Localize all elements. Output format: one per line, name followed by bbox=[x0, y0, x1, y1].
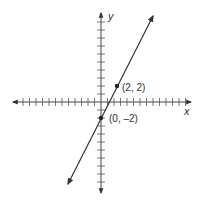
point-2-2-label: (2, 2) bbox=[122, 82, 145, 93]
x-axis-label: x bbox=[183, 105, 190, 117]
y-axis-label: y bbox=[107, 10, 115, 22]
point-2-2 bbox=[115, 84, 119, 88]
point-0-neg2-label: (0, –2) bbox=[109, 113, 138, 124]
coordinate-plane: x y (2, 2) (0, –2) bbox=[0, 0, 199, 209]
point-0-neg2 bbox=[99, 116, 103, 120]
